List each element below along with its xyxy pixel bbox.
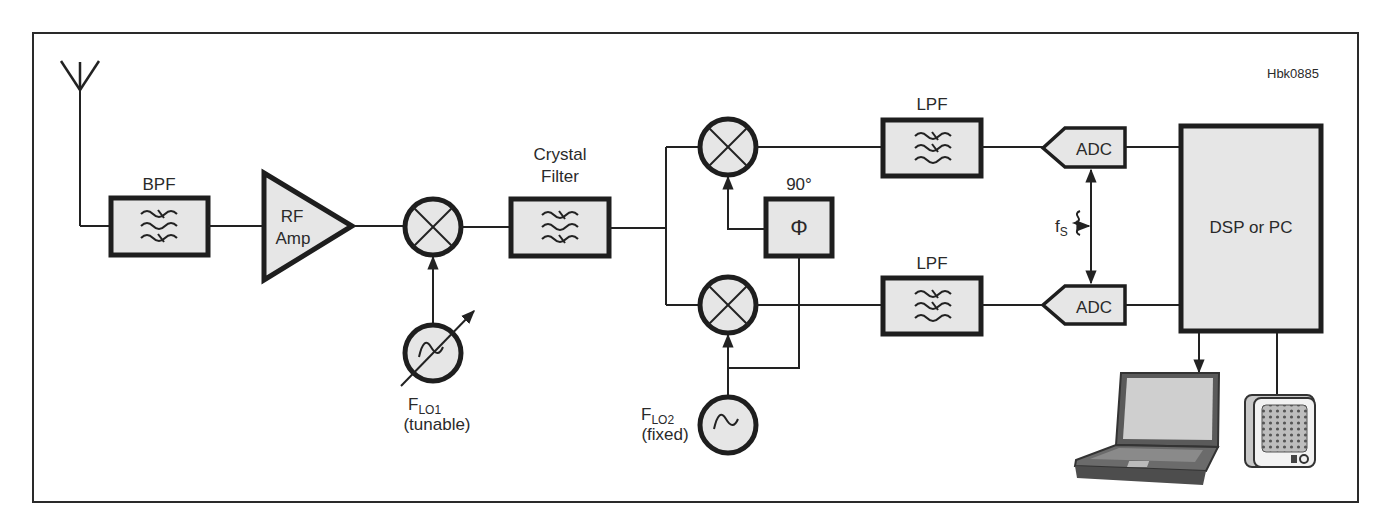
lpf-top-block: LPF: [883, 95, 981, 176]
adc-bottom-block: ADC: [1043, 286, 1125, 324]
lpf-bottom-block: LPF: [883, 254, 981, 334]
mixer-icon: [700, 119, 756, 175]
sample-clock: fS: [1055, 170, 1091, 283]
adc-top-block: ADC: [1043, 128, 1125, 167]
svg-text:LPF: LPF: [916, 95, 947, 114]
svg-text:Amp: Amp: [276, 229, 311, 248]
crystal-filter-block: Crystal Filter: [511, 145, 609, 256]
mixer-icon: [700, 277, 756, 333]
svg-text:fS: fS: [1055, 217, 1068, 239]
laptop-icon: [1075, 373, 1219, 485]
svg-text:FLO2: FLO2: [641, 405, 674, 427]
svg-text:DSP or PC: DSP or PC: [1210, 218, 1293, 237]
dsp-block: DSP or PC: [1181, 126, 1321, 331]
phase-shift-block: 90° Φ: [766, 175, 832, 256]
oscillator-lo2: FLO2 (fixed): [641, 397, 756, 453]
svg-text:ADC: ADC: [1076, 298, 1112, 317]
svg-text:90°: 90°: [786, 175, 812, 194]
antenna-icon: [61, 61, 99, 226]
mixer-icon: [405, 199, 461, 255]
speaker-icon: [1245, 395, 1315, 467]
svg-text:(tunable): (tunable): [403, 415, 470, 434]
wire-iq-split: [609, 147, 700, 305]
bpf-block: BPF: [111, 175, 208, 255]
svg-text:LPF: LPF: [916, 254, 947, 273]
svg-text:FLO1: FLO1: [408, 395, 441, 417]
rf-amp-block: RF Amp: [264, 173, 352, 280]
svg-text:ADC: ADC: [1076, 140, 1112, 159]
svg-text:RF: RF: [281, 207, 304, 226]
oscillator-icon: [700, 397, 756, 453]
svg-text:(fixed): (fixed): [641, 425, 688, 444]
oscillator-lo1: FLO1 (tunable): [401, 311, 474, 434]
receiver-block-diagram: Hbk0885 BPF RF Amp: [0, 0, 1376, 523]
figure-id: Hbk0885: [1267, 66, 1319, 81]
phi-symbol: Φ: [790, 215, 808, 240]
bpf-label: BPF: [142, 175, 175, 194]
svg-text:Filter: Filter: [541, 167, 579, 186]
svg-text:Crystal: Crystal: [534, 145, 587, 164]
